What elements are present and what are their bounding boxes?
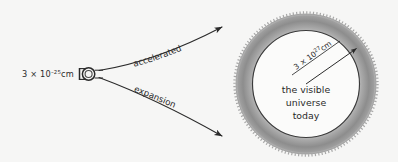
caption-line-3: today — [293, 110, 320, 121]
expansion-label: expansion — [133, 84, 178, 110]
accelerated-arrow-line — [99, 27, 222, 71]
accelerated-label: accelerated — [132, 43, 183, 69]
trajectory-arrows — [99, 27, 222, 136]
primordial-universe-object — [79, 68, 103, 80]
primordial-size-label: 3 × 10–25cm — [22, 69, 74, 79]
expansion-diagram: 3 × 10–25cm accelerated expansion 3 × 10… — [0, 0, 398, 162]
caption-line-1: the visible — [282, 84, 331, 95]
expansion-arrow-line — [99, 78, 222, 137]
diagram-canvas: 3 × 10–25cm accelerated expansion 3 × 10… — [0, 0, 398, 162]
caption-line-2: universe — [286, 97, 327, 108]
